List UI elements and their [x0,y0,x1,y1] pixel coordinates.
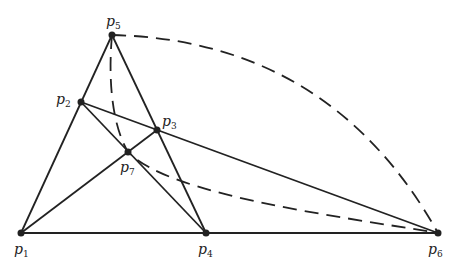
label-p4: p4 [198,242,213,259]
point-p6 [435,230,442,237]
solid-lines [21,35,438,233]
label-p2: p2 [56,92,71,109]
diagram-canvas: p1p2p3p4p5p6p7 [0,0,454,279]
point-p7 [125,149,132,156]
line-p1-p3 [21,130,157,233]
point-p1 [18,230,25,237]
label-p1: p1 [14,242,29,259]
line-p2-p4 [81,102,206,233]
line-p1-p5 [21,35,112,233]
point-p5 [109,32,116,39]
diagram-svg [0,0,454,279]
point-p3 [154,127,161,134]
conic-arc-upper [112,35,438,233]
point-p2 [78,99,85,106]
label-p5: p5 [106,14,121,31]
label-p7: p7 [120,160,135,177]
line-p5-p4 [112,35,206,233]
label-p3: p3 [162,114,177,131]
point-p4 [203,230,210,237]
label-p6: p6 [428,242,443,259]
points [18,32,442,237]
